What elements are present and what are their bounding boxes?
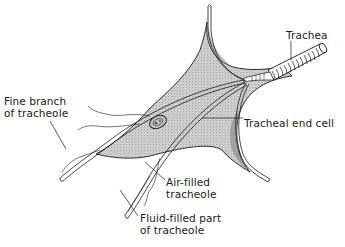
label-trachea: Trachea [286, 29, 328, 41]
end-cell-body [96, 22, 292, 172]
label-tracheal-end-cell: Tracheal end cell [244, 117, 334, 129]
label-line: tracheole [166, 188, 216, 200]
label-line: Fine branch [4, 95, 68, 107]
label-air-filled-tracheole: Air-filled tracheole [166, 176, 216, 200]
label-line: Fluid-filled part [140, 212, 221, 224]
label-fluid-filled-part: Fluid-filled part of tracheole [140, 212, 221, 236]
label-fine-branch: Fine branch of tracheole [4, 95, 68, 119]
label-line: of tracheole [140, 224, 221, 236]
label-line: of tracheole [4, 107, 68, 119]
label-line: Air-filled [166, 176, 216, 188]
